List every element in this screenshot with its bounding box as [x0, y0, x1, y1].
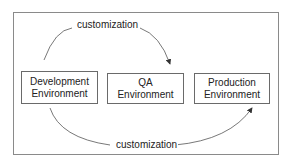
bottom-arrow-head: [175, 108, 252, 145]
node-dev-line2: Environment: [30, 88, 89, 100]
node-qa-line2: Environment: [117, 89, 173, 101]
top-arrow: [44, 28, 72, 60]
node-prod-line2: Environment: [204, 89, 260, 101]
node-production: ProductionEnvironment: [194, 73, 270, 104]
bottom-arrow: [50, 108, 110, 145]
node-qa: QAEnvironment: [107, 73, 184, 104]
node-prod-line1: Production: [204, 77, 260, 89]
top-arrow-head: [140, 28, 170, 64]
edge-label-top: customization: [76, 19, 139, 30]
node-development: DevelopmentEnvironment: [21, 71, 98, 104]
node-dev-line1: Development: [30, 76, 89, 88]
edge-label-bottom: customization: [115, 139, 178, 150]
node-qa-line1: QA: [117, 77, 173, 89]
